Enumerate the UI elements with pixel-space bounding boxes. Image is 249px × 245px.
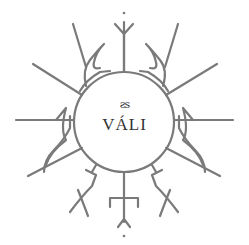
top-rune-icon bbox=[115, 22, 133, 72]
logo-glyph: ƨs bbox=[0, 98, 249, 111]
bottom-rune-icon bbox=[110, 172, 138, 227]
logo-title: VÁLI bbox=[0, 115, 249, 135]
